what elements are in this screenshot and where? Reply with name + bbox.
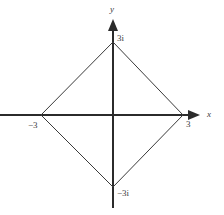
figure-canvas: y x 3i 3 −3i −3 [0, 0, 224, 215]
y-axis-arrow-icon [108, 19, 118, 31]
vertex-label-bottom: −3i [117, 189, 129, 198]
diagram-svg [0, 0, 224, 215]
vertex-label-right: 3 [186, 120, 191, 129]
vertex-label-top: 3i [117, 34, 124, 43]
x-axis-label: x [207, 110, 211, 119]
vertex-label-left: −3 [28, 121, 38, 130]
y-axis-label: y [110, 5, 114, 14]
